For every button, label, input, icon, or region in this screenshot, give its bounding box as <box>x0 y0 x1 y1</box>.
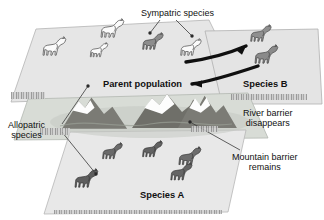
label-species-a: Species A <box>140 190 184 200</box>
label-allopatric-species: Allopatric species <box>8 120 45 140</box>
species-a-plane <box>44 130 246 214</box>
caption-strip-center-right <box>191 126 218 132</box>
label-mountain-barrier: Mountain barrier remains <box>232 152 298 172</box>
caption-strip-right <box>231 94 307 100</box>
label-species-b: Species B <box>243 79 287 89</box>
label-sympatric-species: Sympatric species <box>141 8 214 18</box>
label-parent-population: Parent population <box>103 79 182 89</box>
species-b-plane <box>205 29 322 104</box>
label-river-barrier: River barrier disappears <box>243 108 293 128</box>
caption-strip-bottom <box>54 210 222 214</box>
figure-canvas: Sympatric species Parent population Spec… <box>0 0 324 220</box>
caption-strip-left <box>11 92 45 99</box>
